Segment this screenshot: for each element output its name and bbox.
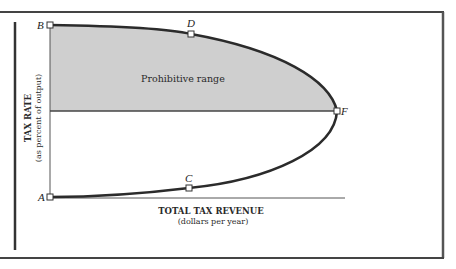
point-f-marker <box>334 108 340 114</box>
laffer-diagram: B D F C A Prohibitive range TAX RATE (as… <box>0 0 456 269</box>
point-b-marker <box>47 22 53 28</box>
point-f-label: F <box>340 105 348 117</box>
y-axis-label: TAX RATE <box>23 93 33 142</box>
point-d-marker <box>188 31 194 37</box>
point-a-label: A <box>37 191 45 203</box>
x-axis-sublabel: (dollars per year) <box>178 217 249 226</box>
prohibitive-region <box>50 25 337 111</box>
point-d-label: D <box>186 17 195 29</box>
point-a-marker <box>47 194 53 200</box>
point-c-label: C <box>185 172 193 184</box>
y-axis-sublabel: (as percent of output) <box>34 74 43 162</box>
prohibitive-range-label: Prohibitive range <box>141 73 225 84</box>
point-c-marker <box>186 185 192 191</box>
x-axis-label: TOTAL TAX REVENUE <box>158 206 264 216</box>
point-b-label: B <box>37 19 44 31</box>
